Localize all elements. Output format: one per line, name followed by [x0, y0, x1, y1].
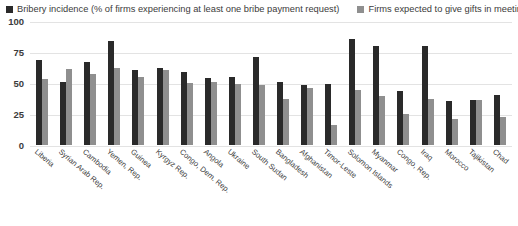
bar-chart: Bribery incidence (% of firms experienci…	[0, 0, 518, 226]
bar-group[interactable]	[343, 22, 367, 146]
axis-baseline	[30, 145, 512, 146]
bar-group[interactable]	[175, 22, 199, 146]
legend-label-gifts-in-meetings: Firms expected to give gifts in meetings	[368, 4, 518, 14]
x-axis-tick-label: Liberia	[33, 148, 56, 169]
x-axis: LiberiaSyrian Arab Rep.CambodiaYemen, Re…	[30, 148, 512, 226]
bar-group[interactable]	[488, 22, 512, 146]
bar-group[interactable]	[54, 22, 78, 146]
x-axis-tick-label: Iraq	[418, 148, 433, 163]
y-axis-tick-label: 25	[13, 110, 24, 120]
y-axis: 0255075100	[0, 22, 28, 146]
bar-gifts-in-meetings[interactable]	[476, 100, 482, 146]
gridline	[30, 146, 512, 147]
bar-gifts-in-meetings[interactable]	[403, 114, 409, 146]
y-axis-tick-label: 100	[8, 17, 24, 27]
y-axis-tick-label: 75	[13, 48, 24, 58]
bar-gifts-in-meetings[interactable]	[307, 88, 313, 146]
bar-group[interactable]	[223, 22, 247, 146]
bar-gifts-in-meetings[interactable]	[163, 70, 169, 146]
bar-group[interactable]	[295, 22, 319, 146]
bar-gifts-in-meetings[interactable]	[187, 83, 193, 146]
legend-item-gifts-in-meetings: Firms expected to give gifts in meetings	[357, 4, 518, 14]
bar-group[interactable]	[126, 22, 150, 146]
bar-group[interactable]	[464, 22, 488, 146]
square-marker-icon	[6, 6, 13, 13]
square-marker-icon	[357, 6, 364, 13]
bar-gifts-in-meetings[interactable]	[211, 82, 217, 146]
y-axis-tick-label: 50	[13, 79, 24, 89]
bar-gifts-in-meetings[interactable]	[452, 119, 458, 146]
bar-group[interactable]	[319, 22, 343, 146]
x-axis-tick-label: Morocco	[443, 148, 470, 173]
bar-gifts-in-meetings[interactable]	[114, 68, 120, 146]
y-axis-tick-label: 0	[19, 141, 24, 151]
bar-gifts-in-meetings[interactable]	[428, 99, 434, 146]
bar-group[interactable]	[30, 22, 54, 146]
bar-gifts-in-meetings[interactable]	[283, 99, 289, 146]
bar-group[interactable]	[440, 22, 464, 146]
bar-gifts-in-meetings[interactable]	[259, 85, 265, 146]
legend-label-bribery-incidence: Bribery incidence (% of firms experienci…	[17, 4, 339, 14]
x-axis-tick-label: Ukraine	[226, 148, 251, 171]
plot-area	[30, 22, 512, 146]
bar-gifts-in-meetings[interactable]	[138, 77, 144, 146]
bar-group[interactable]	[367, 22, 391, 146]
bar-series-container	[30, 22, 512, 146]
bar-gifts-in-meetings[interactable]	[355, 90, 361, 146]
bar-group[interactable]	[271, 22, 295, 146]
bar-gifts-in-meetings[interactable]	[500, 117, 506, 146]
bar-group[interactable]	[150, 22, 174, 146]
bar-gifts-in-meetings[interactable]	[235, 84, 241, 146]
bar-group[interactable]	[247, 22, 271, 146]
chart-legend: Bribery incidence (% of firms experienci…	[6, 2, 512, 16]
bar-group[interactable]	[416, 22, 440, 146]
bar-group[interactable]	[199, 22, 223, 146]
bar-gifts-in-meetings[interactable]	[379, 96, 385, 146]
bar-group[interactable]	[102, 22, 126, 146]
bar-group[interactable]	[78, 22, 102, 146]
x-axis-tick-label: Chad	[491, 148, 510, 166]
bar-gifts-in-meetings[interactable]	[331, 125, 337, 146]
bar-gifts-in-meetings[interactable]	[42, 79, 48, 146]
bar-gifts-in-meetings[interactable]	[66, 69, 72, 146]
bar-group[interactable]	[391, 22, 415, 146]
legend-item-bribery-incidence: Bribery incidence (% of firms experienci…	[6, 4, 339, 14]
bar-gifts-in-meetings[interactable]	[90, 74, 96, 146]
